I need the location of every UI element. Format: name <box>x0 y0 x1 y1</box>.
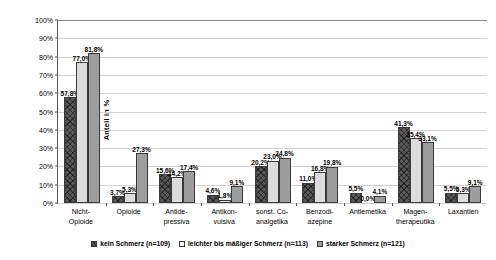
x-axis-label: Benzodi- azepine <box>296 207 344 227</box>
x-axis-tick-mark <box>392 203 393 206</box>
bar-value-label: 27,3% <box>132 147 150 154</box>
bar-value-label: 9,1% <box>468 180 483 187</box>
x-axis-tick-mark <box>296 203 297 206</box>
bar[interactable]: 57,8% <box>64 97 76 203</box>
legend-label: starker Schmerz (n=121) <box>326 240 405 247</box>
x-axis-label: Laxantien <box>439 207 487 227</box>
y-axis-tick-label: 40% <box>39 126 53 133</box>
x-axis-label: Magen- therapeutika <box>391 207 439 227</box>
bar[interactable]: 1,8% <box>219 200 231 203</box>
bar-group: 41,3%35,4%33,1% <box>392 20 440 203</box>
y-axis-tick-label: 70% <box>39 71 53 78</box>
bar-value-label: 41,3% <box>394 121 412 128</box>
y-axis-tick-label: 10% <box>39 181 53 188</box>
bar-value-label: 9,1% <box>229 180 244 187</box>
bar[interactable]: 5,5% <box>445 193 457 203</box>
bar-value-label: 24,8% <box>275 151 293 158</box>
y-axis-tick-label: 100% <box>35 17 53 24</box>
bar[interactable]: 27,3% <box>136 153 148 203</box>
legend-item[interactable]: kein Schmerz (n=109) <box>91 240 170 247</box>
bar[interactable]: 15,6% <box>159 174 171 203</box>
y-axis-tick-label: 50% <box>39 108 53 115</box>
bar[interactable]: 17,4% <box>183 171 195 203</box>
y-axis-tick-label: 60% <box>39 90 53 97</box>
bar-group: 15,6%14,2%17,4% <box>153 20 201 203</box>
bar-group: 11,0%16,8%19,8% <box>296 20 344 203</box>
bar[interactable]: 81,8% <box>88 53 100 203</box>
x-axis-tick-mark <box>106 203 107 206</box>
x-axis-label: Antide- pressiva <box>153 207 201 227</box>
x-axis-tick-mark <box>344 203 345 206</box>
x-axis-label: sonst. Co- analgetika <box>248 207 296 227</box>
bar[interactable]: 19,8% <box>326 167 338 203</box>
x-axis-tick-mark <box>153 203 154 206</box>
gridline <box>58 203 487 204</box>
x-axis-label: Antiemetika <box>344 207 392 227</box>
bar-group: 4,6%1,8%9,1% <box>201 20 249 203</box>
bar[interactable]: 4,1% <box>374 196 386 204</box>
bar[interactable]: 33,1% <box>422 142 434 203</box>
bar[interactable]: 9,1% <box>469 186 481 203</box>
legend-label: leichter bis mäßiger Schmerz (n=113) <box>188 240 308 247</box>
legend-label: kein Schmerz (n=109) <box>100 240 170 247</box>
bar[interactable]: 23,0% <box>267 161 279 203</box>
y-axis-tick-label: 30% <box>39 145 53 152</box>
legend-item[interactable]: leichter bis mäßiger Schmerz (n=113) <box>179 240 308 247</box>
bar[interactable]: 77,0% <box>76 62 88 203</box>
bar[interactable]: 11,0% <box>302 183 314 203</box>
y-axis-tick-label: 80% <box>39 53 53 60</box>
bar-value-label: 19,8% <box>323 160 341 167</box>
bar-value-label: 17,4% <box>180 165 198 172</box>
bar[interactable]: 5,3% <box>457 193 469 203</box>
bar-group: 5,5%5,3%9,1% <box>439 20 487 203</box>
bar[interactable]: 16,8% <box>314 172 326 203</box>
bar-value-label: 5,5% <box>348 186 363 193</box>
bar[interactable]: 5,3% <box>124 193 136 203</box>
x-axis-labels: Nicht- OpioideOpioideAntide- pressivaAnt… <box>57 207 487 227</box>
bar-group: 3,7%5,3%27,3% <box>106 20 154 203</box>
bar[interactable]: 41,3% <box>398 127 410 203</box>
x-axis-tick-mark <box>249 203 250 206</box>
bar[interactable]: 3,7% <box>112 196 124 203</box>
bar-value-label: 81,8% <box>85 47 103 54</box>
chart-legend: kein Schmerz (n=109)leichter bis mäßiger… <box>0 240 496 247</box>
y-axis-tick-label: 20% <box>39 163 53 170</box>
bar-value-label: 33,1% <box>418 136 436 143</box>
legend-swatch-icon <box>179 241 185 247</box>
legend-swatch-icon <box>317 241 323 247</box>
x-axis-tick-mark <box>201 203 202 206</box>
x-axis-label: Nicht- Opioide <box>57 207 105 227</box>
y-axis-tick-label: 0% <box>43 200 53 207</box>
grouped-bar-chart: Anteil in % 0%10%20%30%40%50%60%70%80%90… <box>0 0 496 260</box>
bar[interactable]: 9,1% <box>231 186 243 203</box>
x-axis-label: Antikon- vulsiva <box>200 207 248 227</box>
bar-group: 20,2%23,0%24,8% <box>249 20 297 203</box>
legend-swatch-icon <box>91 241 97 247</box>
plot-area: 0%10%20%30%40%50%60%70%80%90%100% 57,8%7… <box>57 20 487 204</box>
bar-group: 57,8%77,0%81,8% <box>58 20 106 203</box>
bar[interactable]: 35,4% <box>410 138 422 203</box>
bar[interactable]: 20,2% <box>255 166 267 203</box>
x-axis-tick-mark <box>439 203 440 206</box>
bar-groups: 57,8%77,0%81,8%3,7%5,3%27,3%15,6%14,2%17… <box>58 20 487 203</box>
plot-inner: 0%10%20%30%40%50%60%70%80%90%100% 57,8%7… <box>58 20 487 203</box>
bar-value-label: 4,1% <box>372 189 387 196</box>
x-axis-label: Opioide <box>105 207 153 227</box>
legend-item[interactable]: starker Schmerz (n=121) <box>317 240 405 247</box>
bar[interactable]: 24,8% <box>279 158 291 203</box>
y-axis-tick-label: 90% <box>39 35 53 42</box>
bar[interactable]: 14,2% <box>171 177 183 203</box>
bar-group: 5,5%0,0%4,1% <box>344 20 392 203</box>
